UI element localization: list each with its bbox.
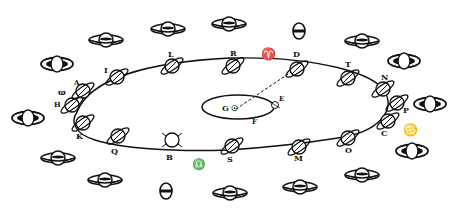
label-A: A	[73, 78, 80, 87]
aspect-upper-4	[345, 34, 379, 48]
aspect-right-1	[414, 96, 446, 112]
label-I: I	[104, 65, 108, 75]
sun-label: G	[222, 103, 229, 113]
label-Q: Q	[111, 146, 118, 156]
label-S: S	[227, 154, 233, 164]
aspect-lower-4	[88, 173, 122, 187]
capricorn-symbol: ϖ	[58, 87, 66, 97]
aspect-upper-5	[388, 53, 420, 69]
aspect-upper-1	[89, 33, 123, 47]
aspect-lower-3	[213, 186, 247, 200]
label-O: O	[345, 145, 352, 155]
aspect-edge-top	[293, 23, 305, 39]
label-R: R	[230, 48, 237, 58]
label-D: D	[293, 49, 300, 59]
saturn-orbit-diagram: G ☉ E F L R D T N P C O M S	[0, 0, 459, 212]
aspect-edge-bottom	[160, 183, 172, 199]
saturn-position-I	[104, 66, 130, 87]
saturn-position-B	[162, 133, 182, 147]
label-C: C	[381, 128, 387, 138]
label-N: N	[381, 72, 388, 82]
aspect-left-2	[41, 56, 73, 72]
aspect-lower-2	[283, 180, 317, 194]
aspect-lower-5	[41, 151, 75, 165]
aries-symbol: ♈	[261, 47, 276, 61]
libra-symbol: ♎	[192, 158, 206, 171]
aspect-upper-2	[151, 22, 185, 36]
label-T: T	[345, 59, 351, 69]
label-F: F	[252, 117, 257, 126]
label-H: H	[54, 100, 61, 109]
earth-orbit: G ☉ E F	[202, 66, 300, 126]
label-B: B	[166, 152, 173, 162]
label-E: E	[279, 94, 284, 103]
aspect-lower-1	[345, 168, 379, 182]
label-M: M	[294, 153, 303, 163]
cancer-symbol: ♋	[403, 123, 418, 137]
label-K: K	[76, 131, 84, 141]
aspect-right-2	[396, 143, 428, 159]
aspect-left-1	[12, 110, 44, 126]
saturn-position-T	[335, 67, 361, 88]
label-P: P	[403, 105, 409, 115]
label-L: L	[168, 49, 174, 59]
aspect-upper-3	[212, 17, 246, 31]
